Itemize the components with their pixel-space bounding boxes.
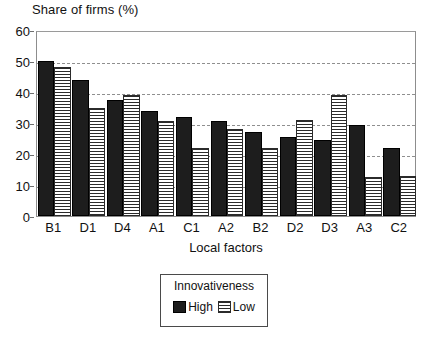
- y-tick-mark-30: [30, 124, 34, 125]
- x-tick-label-d3: D3: [321, 220, 338, 235]
- bar-b2-low: [262, 148, 278, 216]
- y-tick-label-40: 40: [16, 87, 30, 100]
- chart-figure: Share of firms (%) 0102030405060 B1D1D4A…: [0, 0, 424, 344]
- bar-b1-low: [54, 67, 70, 216]
- x-axis: B1D1D4A1C1A2B2D2D3A3C2: [36, 220, 416, 238]
- x-axis-title: Local factors: [36, 240, 416, 255]
- bar-d3-low: [331, 95, 347, 216]
- y-tick-mark-50: [30, 62, 34, 63]
- bar-c2-high: [383, 148, 399, 216]
- bar-a2-low: [227, 129, 243, 216]
- bar-d2-low: [296, 120, 312, 216]
- bar-a1-high: [141, 111, 157, 216]
- legend-title: Innovativeness: [161, 279, 267, 293]
- bar-a3-high: [349, 125, 365, 216]
- chart-title: Share of firms (%): [32, 2, 139, 17]
- y-tick-mark-60: [30, 31, 34, 32]
- x-tick-label-d4: D4: [114, 220, 131, 235]
- bar-b1-high: [38, 61, 54, 216]
- legend-entry-high: High: [173, 300, 213, 314]
- legend-swatch-low: [218, 301, 231, 313]
- bar-d3-high: [314, 140, 330, 216]
- x-tick-label-b1: B1: [45, 220, 61, 235]
- bar-d4-low: [123, 95, 139, 216]
- y-tick-label-0: 0: [23, 211, 30, 224]
- plot-area: [36, 31, 416, 217]
- bar-c1-high: [176, 117, 192, 216]
- gridline-50: [37, 63, 415, 64]
- y-tick-mark-10: [30, 186, 34, 187]
- y-tick-label-60: 60: [16, 25, 30, 38]
- y-tick-mark-0: [30, 217, 34, 218]
- bar-a3-low: [365, 177, 381, 216]
- gridline-40: [37, 94, 415, 95]
- x-tick-label-a2: A2: [218, 220, 234, 235]
- y-tick-mark-40: [30, 93, 34, 94]
- bar-a2-high: [211, 121, 227, 216]
- y-tick-label-20: 20: [16, 149, 30, 162]
- bar-a1-low: [158, 121, 174, 216]
- y-axis: 0102030405060: [0, 31, 34, 217]
- x-tick-label-a3: A3: [356, 220, 372, 235]
- legend-label-high: High: [188, 300, 213, 314]
- plot-inner: [37, 32, 415, 216]
- legend-label-low: Low: [233, 300, 255, 314]
- legend-entries: HighLow: [161, 300, 267, 314]
- legend-swatch-high: [173, 301, 186, 313]
- x-tick-label-d2: D2: [287, 220, 304, 235]
- bar-d4-high: [107, 100, 123, 216]
- bar-d1-low: [89, 108, 105, 217]
- y-tick-label-10: 10: [16, 180, 30, 193]
- x-tick-label-d1: D1: [80, 220, 97, 235]
- chart-legend: Innovativeness HighLow: [160, 274, 268, 327]
- x-tick-label-b2: B2: [253, 220, 269, 235]
- bar-b2-high: [245, 132, 261, 216]
- y-tick-label-30: 30: [16, 118, 30, 131]
- y-tick-label-50: 50: [16, 56, 30, 69]
- bar-c2-low: [400, 176, 416, 216]
- x-tick-label-c2: C2: [390, 220, 407, 235]
- x-tick-label-a1: A1: [149, 220, 165, 235]
- legend-entry-low: Low: [218, 300, 255, 314]
- bar-d2-high: [280, 137, 296, 216]
- bar-d1-high: [72, 80, 88, 216]
- bar-c1-low: [192, 148, 208, 216]
- y-tick-mark-20: [30, 155, 34, 156]
- x-tick-label-c1: C1: [183, 220, 200, 235]
